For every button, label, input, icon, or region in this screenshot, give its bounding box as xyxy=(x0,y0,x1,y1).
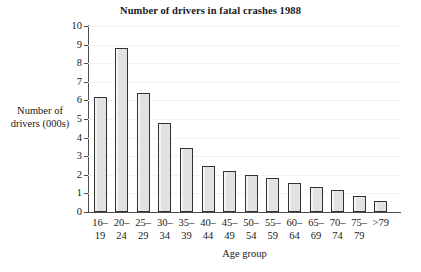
y-axis-tick-mark xyxy=(84,138,88,139)
y-axis-tick-label: 4 xyxy=(77,131,82,144)
chart-title: Number of drivers in fatal crashes 1988 xyxy=(0,5,421,16)
y-axis-title-line-2: drivers (000s) xyxy=(4,117,76,130)
y-axis-title: Number of drivers (000s) xyxy=(4,104,76,130)
x-axis-tick-label: >79 xyxy=(366,216,396,229)
y-axis-tick-mark xyxy=(84,119,88,120)
y-axis-tick-label: 0 xyxy=(77,205,82,218)
y-axis-tick-label: 1 xyxy=(77,186,82,199)
bar xyxy=(266,178,279,212)
x-axis-tick-label-line: >79 xyxy=(366,216,396,229)
bar xyxy=(331,190,344,212)
y-axis-tick-mark xyxy=(84,45,88,46)
bar xyxy=(180,148,193,212)
bar xyxy=(374,201,387,212)
x-axis-tick-label-line: 79 xyxy=(344,229,374,242)
x-axis-title: Age group xyxy=(88,248,401,259)
gridline xyxy=(88,156,400,157)
y-axis-tick-label: 8 xyxy=(77,56,82,69)
y-axis-tick-mark xyxy=(84,63,88,64)
y-axis-tick-mark xyxy=(84,100,88,101)
bar xyxy=(115,48,128,212)
gridline xyxy=(88,82,400,83)
y-axis-tick-mark xyxy=(84,175,88,176)
x-axis-line xyxy=(88,212,401,213)
y-axis-tick-label: 6 xyxy=(77,93,82,106)
y-axis-tick-mark xyxy=(84,212,88,213)
gridline xyxy=(88,26,400,27)
y-axis-tick-label: 9 xyxy=(77,38,82,51)
y-axis-tick-label: 5 xyxy=(77,112,82,125)
bar xyxy=(310,187,323,212)
gridline xyxy=(88,138,400,139)
bar xyxy=(288,183,301,212)
y-axis-tick-label: 7 xyxy=(77,75,82,88)
chart-figure: Number of drivers in fatal crashes 1988 … xyxy=(0,0,421,272)
y-axis-tick-label: 2 xyxy=(77,168,82,181)
bar xyxy=(94,97,107,212)
bar xyxy=(158,123,171,212)
plot-area: 012345678910 xyxy=(88,26,400,212)
bar xyxy=(245,175,258,212)
y-axis-tick-mark xyxy=(84,26,88,27)
y-axis-tick-mark xyxy=(84,193,88,194)
gridline xyxy=(88,63,400,64)
y-axis-tick-mark xyxy=(84,82,88,83)
y-axis-tick-label: 3 xyxy=(77,149,82,162)
y-axis-tick-label: 10 xyxy=(72,19,83,32)
bar xyxy=(353,196,366,212)
bar xyxy=(202,166,215,213)
bar xyxy=(137,93,150,212)
gridline xyxy=(88,100,400,101)
y-axis-title-line-1: Number of xyxy=(4,104,76,117)
bar xyxy=(223,171,236,212)
gridline xyxy=(88,45,400,46)
gridline xyxy=(88,119,400,120)
y-axis-tick-mark xyxy=(84,156,88,157)
